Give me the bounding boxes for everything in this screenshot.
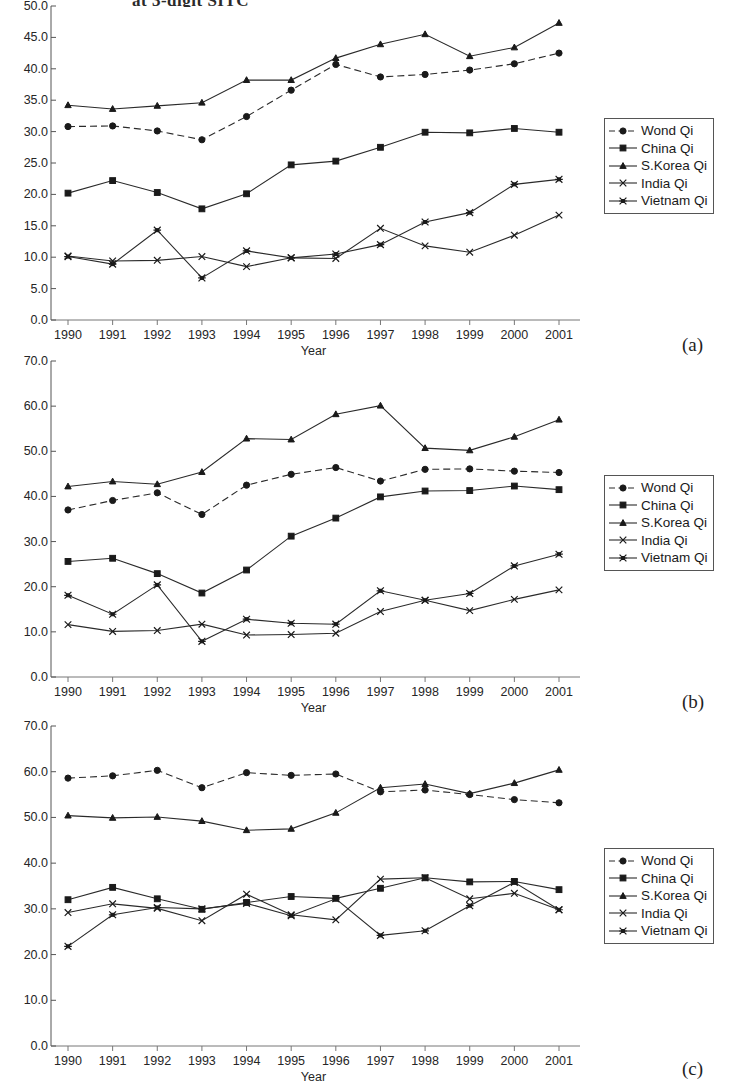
x-axis-tick-label: 1997 bbox=[367, 686, 395, 699]
x-axis-tick-label: 1996 bbox=[322, 686, 350, 699]
data-point-marker bbox=[511, 468, 517, 474]
x-axis-tick-label: 1998 bbox=[411, 329, 439, 342]
legend-c: Wond QiChina QiS.Korea QiIndia QiVietnam… bbox=[604, 848, 714, 944]
x-axis-title: Year bbox=[301, 701, 326, 715]
y-axis-tick-label: 40.0 bbox=[24, 857, 48, 869]
data-point-marker bbox=[556, 212, 563, 219]
x-axis-tick-label: 1998 bbox=[411, 686, 439, 699]
series-line-india-qi bbox=[68, 590, 559, 635]
y-axis-tick-label: 30.0 bbox=[24, 126, 48, 138]
legend-item-label: Vietnam Qi bbox=[641, 194, 708, 208]
legend-item-s-korea-qi[interactable]: S.Korea Qi bbox=[608, 514, 708, 532]
x-axis-tick-label: 2001 bbox=[545, 329, 573, 342]
y-axis-tick-label: 0.0 bbox=[31, 671, 48, 683]
data-point-marker bbox=[556, 129, 562, 135]
data-point-marker bbox=[288, 87, 294, 93]
data-point-marker bbox=[377, 587, 385, 594]
data-point-marker bbox=[65, 559, 71, 565]
data-point-marker bbox=[154, 896, 160, 902]
legend-item-s-korea-qi[interactable]: S.Korea Qi bbox=[608, 157, 708, 175]
data-point-marker bbox=[466, 902, 474, 909]
series-line-vietnam-qi bbox=[68, 882, 559, 946]
y-axis-tick-label: 30.0 bbox=[24, 536, 48, 548]
legend-item-india-qi[interactable]: India Qi bbox=[608, 532, 708, 550]
legend-item-label: China Qi bbox=[641, 499, 694, 513]
legend-item-label: China Qi bbox=[641, 872, 694, 886]
data-point-marker bbox=[287, 912, 295, 919]
y-axis-tick-label: 20.0 bbox=[24, 581, 48, 593]
data-point-marker bbox=[511, 232, 518, 239]
y-axis-tick-label: 50.0 bbox=[24, 0, 48, 12]
legend-item-vietnam-qi[interactable]: Vietnam Qi bbox=[608, 549, 708, 567]
data-point-marker bbox=[244, 567, 250, 573]
data-point-marker bbox=[243, 770, 249, 776]
series-line-wond-qi bbox=[68, 468, 559, 515]
series-line-china-qi bbox=[68, 878, 559, 910]
x-axis-tick-label: 1999 bbox=[456, 1055, 484, 1068]
x-axis-tick-label: 1991 bbox=[99, 329, 127, 342]
data-point-marker bbox=[109, 478, 115, 484]
data-point-marker bbox=[154, 490, 160, 496]
y-axis-tick-label: 40.0 bbox=[24, 490, 48, 502]
data-point-marker bbox=[64, 943, 72, 950]
legend-item-label: India Qi bbox=[641, 534, 688, 548]
data-point-marker bbox=[110, 178, 116, 184]
data-point-marker bbox=[511, 797, 517, 803]
series-line-s-korea-qi bbox=[68, 770, 559, 830]
y-axis-tick-label: 30.0 bbox=[24, 903, 48, 915]
data-point-marker bbox=[110, 773, 116, 779]
legend-item-china-qi[interactable]: China Qi bbox=[608, 870, 708, 888]
x-axis-tick-label: 1997 bbox=[367, 1055, 395, 1068]
chart-panel-b: 0.010.020.030.040.050.060.070.0199019911… bbox=[0, 355, 730, 720]
legend-item-s-korea-qi[interactable]: S.Korea Qi bbox=[608, 887, 708, 905]
data-point-marker bbox=[110, 497, 116, 503]
data-point-marker bbox=[287, 620, 295, 627]
x-axis-tick-label: 2001 bbox=[545, 686, 573, 699]
legend-marker-x-icon bbox=[608, 907, 638, 919]
panel-label-c: (c) bbox=[682, 1058, 703, 1080]
data-point-marker bbox=[332, 621, 340, 628]
x-axis-title: Year bbox=[301, 1070, 326, 1084]
legend-item-india-qi[interactable]: India Qi bbox=[608, 175, 708, 193]
legend-item-china-qi[interactable]: China Qi bbox=[608, 497, 708, 515]
data-point-marker bbox=[555, 176, 563, 183]
data-point-marker bbox=[110, 555, 116, 561]
legend-item-vietnam-qi[interactable]: Vietnam Qi bbox=[608, 922, 708, 940]
legend-item-vietnam-qi[interactable]: Vietnam Qi bbox=[608, 192, 708, 210]
legend-item-wond-qi[interactable]: Wond Qi bbox=[608, 122, 708, 140]
data-point-marker bbox=[556, 487, 562, 493]
legend-item-india-qi[interactable]: India Qi bbox=[608, 905, 708, 923]
data-point-marker bbox=[422, 71, 428, 77]
data-point-marker bbox=[288, 162, 294, 168]
legend-marker-x-icon bbox=[608, 177, 638, 189]
y-axis-tick-label: 40.0 bbox=[24, 63, 48, 75]
y-axis-tick-label: 10.0 bbox=[24, 626, 48, 638]
data-point-marker bbox=[154, 571, 160, 577]
data-point-marker bbox=[288, 772, 294, 778]
data-point-marker bbox=[243, 616, 251, 623]
data-point-marker bbox=[467, 130, 473, 136]
x-axis-tick-label: 1990 bbox=[54, 329, 82, 342]
x-axis-tick-label: 1995 bbox=[277, 686, 305, 699]
data-point-marker bbox=[332, 251, 340, 258]
series-line-s-korea-qi bbox=[68, 23, 559, 109]
data-point-marker bbox=[511, 44, 517, 50]
legend-item-china-qi[interactable]: China Qi bbox=[608, 140, 708, 158]
legend-item-wond-qi[interactable]: Wond Qi bbox=[608, 852, 708, 870]
data-point-marker bbox=[511, 61, 517, 67]
data-point-marker bbox=[199, 206, 205, 212]
legend-marker-x-icon bbox=[608, 534, 638, 546]
data-point-marker bbox=[422, 129, 428, 135]
data-point-marker bbox=[511, 126, 517, 132]
series-line-china-qi bbox=[68, 486, 559, 593]
data-point-marker bbox=[65, 775, 71, 781]
legend-marker-circle-icon bbox=[608, 125, 638, 137]
series-line-vietnam-qi bbox=[68, 179, 559, 278]
legend-item-wond-qi[interactable]: Wond Qi bbox=[608, 479, 708, 497]
data-point-marker bbox=[288, 894, 294, 900]
data-point-marker bbox=[511, 563, 519, 570]
data-point-marker bbox=[556, 20, 562, 26]
data-point-marker bbox=[378, 885, 384, 891]
data-point-marker bbox=[153, 582, 161, 589]
data-point-marker bbox=[153, 904, 161, 911]
